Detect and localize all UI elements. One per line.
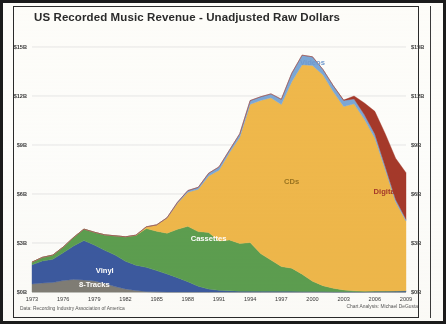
x-axis-tick-label: 1991 xyxy=(213,296,225,302)
y-axis-right-tick-label: $9B xyxy=(411,142,421,148)
x-axis-labels: 1973197619791982198519881991199419972000… xyxy=(26,296,412,302)
footnote-chart-analysis: Chart Analysis: Michael DeGusta xyxy=(347,304,419,309)
y-axis-tick-label: $12B xyxy=(14,93,27,99)
y-axis-tick-label: $3B xyxy=(17,240,27,246)
y-axis-tick-label: $9B xyxy=(17,142,27,148)
x-axis-tick-label: 1973 xyxy=(26,296,38,302)
x-axis-tick-label: 1985 xyxy=(150,296,162,302)
x-axis-tick-label: 2006 xyxy=(369,296,381,302)
y-axis-right-tick-label: $6B xyxy=(411,191,421,197)
y-axis-right-tick-label: $15B xyxy=(411,44,424,50)
x-axis-tick-label: 1982 xyxy=(119,296,131,302)
y-axis-right-labels: $0B$3B$6B$9B$12B$15B xyxy=(411,44,424,295)
y-axis-right-tick-label: $0B xyxy=(411,289,421,295)
footnotes-group: Data: Recording Industry Association of … xyxy=(20,304,418,311)
series-areas-group xyxy=(32,55,406,292)
series-label-cassettes: Cassettes xyxy=(191,234,227,243)
series-label-8-tracks: 8-Tracks xyxy=(79,280,110,289)
x-axis-tick-label: 2003 xyxy=(337,296,349,302)
stacked-area-chart: $0B$3B$6B$9B$12B$15B $0B$3B$6B$9B$12B$15… xyxy=(0,0,446,324)
x-axis-tick-label: 2000 xyxy=(306,296,318,302)
y-axis-tick-label: $6B xyxy=(17,191,27,197)
x-axis-tick-label: 1988 xyxy=(182,296,194,302)
series-label-vinyl: Vinyl xyxy=(96,266,114,275)
x-axis-tick-label: 1976 xyxy=(57,296,69,302)
footnote-data-source: Data: Recording Industry Association of … xyxy=(20,306,125,311)
chart-figure: US Recorded Music Revenue - Unadjusted R… xyxy=(0,0,446,324)
series-label-videos: Videos xyxy=(300,58,325,67)
x-axis-tick-label: 2009 xyxy=(400,296,412,302)
y-axis-tick-label: $15B xyxy=(14,44,27,50)
y-axis-tick-label: $0B xyxy=(17,289,27,295)
series-label-cds: CDs xyxy=(284,177,299,186)
x-axis-tick-label: 1997 xyxy=(275,296,287,302)
x-axis-tick-label: 1994 xyxy=(244,296,256,302)
x-axis-tick-label: 1979 xyxy=(88,296,100,302)
y-axis-right-tick-label: $3B xyxy=(411,240,421,246)
series-label-digital: Digital xyxy=(374,187,397,196)
y-axis-right-tick-label: $12B xyxy=(411,93,424,99)
y-axis-left-labels: $0B$3B$6B$9B$12B$15B xyxy=(14,44,27,295)
